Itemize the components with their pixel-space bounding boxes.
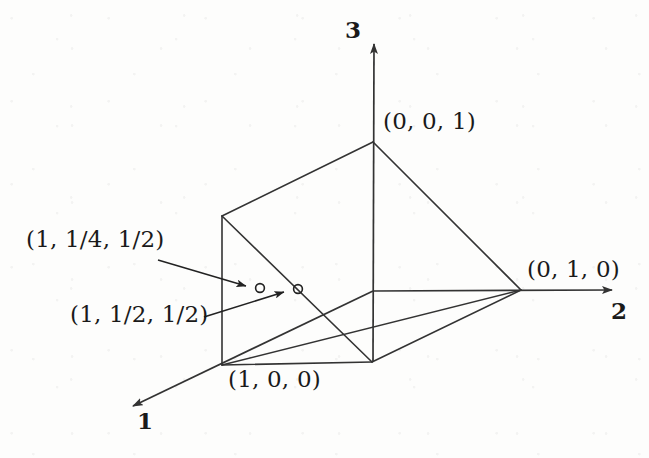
- point-label-b: (1, 1/2, 1/2): [70, 303, 208, 326]
- vertex-label-010: (0, 1, 0): [527, 258, 620, 281]
- axis-3-label: 3: [345, 18, 361, 41]
- edge-vertex100-to-vertex010: [222, 290, 521, 365]
- vertex-label-100: (1, 0, 0): [228, 368, 321, 391]
- polyhedron-edges: [222, 142, 521, 365]
- axis-1-label: 1: [137, 409, 153, 432]
- leader-line-point-b: [204, 292, 284, 317]
- edge-upperleft-to-bottommid: [222, 216, 372, 362]
- axis-2-line: [373, 290, 612, 291]
- leader-line-point-a: [158, 260, 246, 286]
- axis-2-label: 2: [611, 299, 627, 322]
- axis-3-line: [373, 44, 374, 362]
- geometry-figure: 3 2 1 (0, 0, 1) (0, 1, 0) (1, 0, 0) (1, …: [0, 0, 649, 458]
- edge-upperleft-to-apex: [222, 142, 373, 216]
- vertex-label-001: (0, 0, 1): [383, 110, 476, 133]
- marker-point-a: [256, 284, 265, 293]
- edge-vertex100-to-bottommid: [222, 362, 372, 365]
- point-label-a: (1, 1/4, 1/2): [26, 228, 164, 251]
- edge-apex-to-vertex010: [373, 142, 521, 290]
- edge-bottommid-to-vertex010: [372, 290, 521, 362]
